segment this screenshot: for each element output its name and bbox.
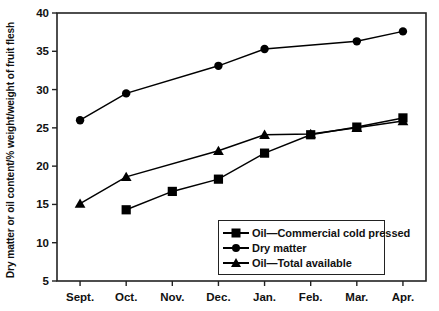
data-point-marker xyxy=(353,37,361,45)
legend-marker-triangle-icon xyxy=(223,256,249,270)
data-point-marker xyxy=(399,27,407,35)
legend-item-label: Oil—Total available xyxy=(252,256,352,270)
data-point-marker xyxy=(75,198,86,207)
data-point-marker xyxy=(76,116,84,124)
data-point-marker xyxy=(260,45,268,53)
data-point-marker xyxy=(122,89,130,97)
legend-item: Dry matter xyxy=(223,240,378,255)
data-point-marker xyxy=(213,146,224,155)
legend-marker-circle-icon xyxy=(223,241,249,255)
legend-item-label: Oil—Commercial cold pressed xyxy=(252,226,410,240)
legend-marker-square-icon xyxy=(223,226,249,240)
series-layer xyxy=(75,27,409,214)
series-line xyxy=(80,121,403,204)
data-point-marker xyxy=(168,187,177,196)
legend-item-label: Dry matter xyxy=(252,241,307,255)
data-point-marker xyxy=(214,62,222,70)
legend-item: Oil—Commercial cold pressed xyxy=(223,225,378,240)
data-point-marker xyxy=(260,149,269,158)
chart-legend: Oil—Commercial cold pressedDry matterOil… xyxy=(218,220,385,275)
legend-item: Oil—Total available xyxy=(223,255,378,270)
data-point-marker xyxy=(214,175,223,184)
chart-figure: Dry matter or oil content/% weight/weigh… xyxy=(0,0,439,311)
data-point-marker xyxy=(122,205,131,214)
